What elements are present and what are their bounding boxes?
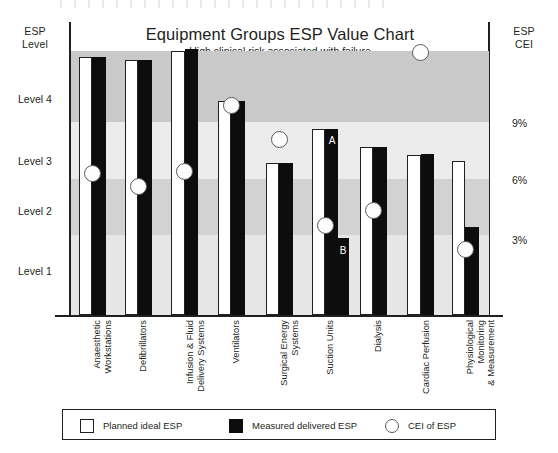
bar-measured-4 [279, 163, 293, 315]
left-axis-title: ESP Level [6, 25, 64, 50]
left-axis-title-line1: ESP [6, 25, 64, 38]
right-tick-9pct: 9% [512, 117, 527, 129]
bar-measured-0 [92, 57, 106, 315]
legend-label-planned: Planned ideal ESP [103, 420, 182, 431]
legend-swatch-open-square-icon [80, 419, 94, 433]
legend-item-planned: Planned ideal ESP [80, 410, 182, 441]
right-axis-title-line2: CEI [496, 38, 552, 51]
bar-measured-7 [421, 154, 435, 315]
scan-noise-strip [60, 0, 390, 8]
legend-item-cei: CEI of ESP [385, 410, 456, 441]
right-axis-title-line1: ESP [496, 25, 552, 38]
plot-area: AB [71, 22, 489, 315]
right-tick-3pct: 3% [512, 234, 527, 246]
baseline-axis [55, 315, 503, 317]
right-tick-6pct: 6% [512, 174, 527, 186]
left-tick-4: Level 4 [18, 93, 52, 105]
left-tick-3: Level 3 [18, 155, 52, 167]
bar-annotation-b: B [340, 246, 347, 256]
bar-planned-0 [79, 57, 93, 315]
cei-marker-5 [317, 217, 334, 234]
bar-planned-2 [171, 51, 185, 315]
left-tick-2: Level 2 [18, 205, 52, 217]
bar-planned-7 [407, 155, 421, 315]
bar-measured-3 [231, 101, 245, 315]
bar-annotation-a: A [329, 136, 336, 146]
legend-swatch-circle-icon [385, 419, 399, 433]
cei-marker-1 [130, 178, 147, 195]
cei-marker-8 [457, 241, 474, 258]
bar-planned-8 [452, 161, 466, 315]
right-axis-title: ESP CEI [496, 25, 552, 50]
cei-marker-0 [84, 165, 101, 182]
bar-measured-8 [465, 227, 479, 315]
legend-label-measured: Measured delivered ESP [252, 420, 357, 431]
legend-swatch-filled-square-icon [229, 419, 243, 433]
bar-planned-3 [218, 101, 232, 315]
cei-marker-7 [412, 44, 429, 61]
legend-item-measured: Measured delivered ESP [229, 410, 357, 441]
cei-marker-6 [365, 202, 382, 219]
bar-planned-6 [360, 147, 374, 315]
left-tick-1: Level 1 [18, 265, 52, 277]
chart-legend: Planned ideal ESP Measured delivered ESP… [62, 409, 496, 440]
left-axis-title-line2: Level [6, 38, 64, 51]
legend-label-cei: CEI of ESP [408, 420, 456, 431]
bar-measured-2 [185, 49, 199, 315]
bar-measured-6 [373, 147, 387, 315]
bar-planned-4 [266, 163, 280, 315]
